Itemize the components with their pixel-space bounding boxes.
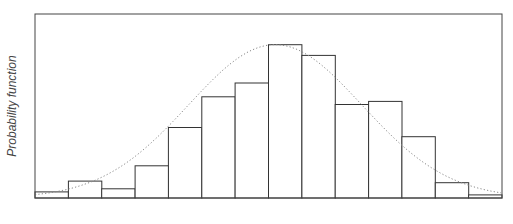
histogram-bar bbox=[402, 137, 435, 198]
histogram-bar bbox=[302, 55, 335, 198]
histogram-bar bbox=[102, 189, 135, 198]
histogram-bar bbox=[269, 45, 302, 198]
histogram-bars bbox=[35, 45, 502, 198]
histogram-bar bbox=[168, 128, 201, 199]
histogram-bar bbox=[235, 83, 268, 198]
histogram-bar bbox=[35, 192, 68, 198]
histogram-bar bbox=[435, 183, 468, 198]
histogram-chart bbox=[0, 0, 513, 224]
histogram-bar bbox=[369, 101, 402, 198]
histogram-bar bbox=[135, 166, 168, 198]
histogram-bar bbox=[202, 97, 235, 198]
histogram-bar bbox=[335, 105, 368, 199]
